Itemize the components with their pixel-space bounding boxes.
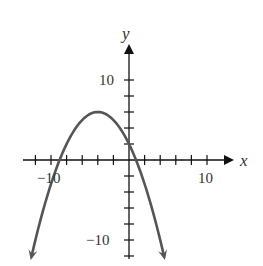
graph: y x −10 10 10 −10 — [0, 0, 263, 266]
x-tick-label-neg10: −10 — [37, 170, 60, 186]
y-axis-label: y — [120, 24, 130, 43]
y-tick-label-10: 10 — [99, 72, 114, 88]
y-tick-label-neg10: −10 — [86, 232, 109, 248]
x-tick-label-10: 10 — [198, 170, 213, 186]
x-axis-label: x — [239, 151, 248, 170]
